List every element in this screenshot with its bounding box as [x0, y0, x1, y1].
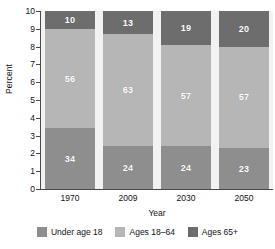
y-tick-label: 9	[17, 25, 35, 33]
bar-segment[interactable]: 10	[45, 11, 95, 29]
bar-segment[interactable]: 23	[219, 148, 269, 189]
x-tick-label: 1970	[45, 193, 95, 207]
bar-column[interactable]: 205723	[219, 11, 269, 189]
bar-segment-label: 63	[123, 85, 133, 95]
x-axis-line	[40, 189, 273, 190]
bar-column[interactable]: 136324	[103, 11, 153, 189]
legend-item[interactable]: Under age 18	[37, 227, 103, 237]
legend-label: Ages 65+	[202, 227, 238, 237]
y-tick-label: 1	[17, 167, 35, 175]
bar-segment[interactable]: 57	[161, 45, 211, 146]
legend-label: Ages 18–64	[129, 227, 174, 237]
y-tick-label: 8	[17, 43, 35, 51]
legend-label: Under age 18	[51, 227, 103, 237]
plot-area: 105634136324195724205723	[41, 11, 273, 189]
bar-segment[interactable]: 19	[161, 11, 211, 45]
bar-segment[interactable]: 13	[103, 11, 153, 34]
bar-segment-label: 24	[123, 163, 133, 173]
bar-column[interactable]: 195724	[161, 11, 211, 189]
y-tick-label: 4	[17, 114, 35, 122]
bar-segment-label: 13	[123, 18, 133, 28]
chart-legend: Under age 18Ages 18–64Ages 65+	[0, 227, 275, 237]
bar-segment-label: 10	[65, 15, 75, 25]
legend-item[interactable]: Ages 18–64	[115, 227, 174, 237]
bar-segment[interactable]: 63	[103, 34, 153, 146]
bar-segment[interactable]: 24	[161, 146, 211, 189]
bar-segment-label: 20	[239, 24, 249, 34]
bar-segment[interactable]: 57	[219, 47, 269, 148]
y-tick-label: 7	[17, 60, 35, 68]
y-tick-label: 6	[17, 78, 35, 86]
bar-column[interactable]: 105634	[45, 11, 95, 189]
y-tick-label: 0	[17, 185, 35, 193]
y-tick-label: 5	[17, 96, 35, 104]
bar-segment[interactable]: 56	[45, 29, 95, 129]
bar-segment[interactable]: 20	[219, 11, 269, 47]
x-tick-label: 2030	[161, 193, 211, 207]
x-axis-title: Year	[41, 208, 273, 218]
bar-segment-label: 24	[181, 163, 191, 173]
y-tick-label: 3	[17, 132, 35, 140]
bar-segment-label: 56	[65, 74, 75, 84]
x-tick-label: 2050	[219, 193, 269, 207]
bar-segment-label: 19	[181, 23, 191, 33]
stacked-bar-chart: Percent 109876543210 1056341363241957242…	[0, 0, 275, 249]
legend-swatch-icon	[115, 227, 125, 237]
y-axis-tick-labels: 109876543210	[17, 11, 35, 189]
bar-segment-label: 34	[65, 154, 75, 164]
y-axis-title: Percent	[4, 44, 14, 114]
bar-segment[interactable]: 24	[103, 146, 153, 189]
legend-item[interactable]: Ages 65+	[188, 227, 238, 237]
x-axis-tick-labels: 1970200920302050	[41, 193, 273, 207]
legend-swatch-icon	[37, 227, 47, 237]
y-tick-label: 2	[17, 149, 35, 157]
y-tick-label: 10	[17, 7, 35, 15]
bar-segment-label: 57	[239, 92, 249, 102]
bar-segment[interactable]: 34	[45, 128, 95, 189]
legend-swatch-icon	[188, 227, 198, 237]
x-tick-label: 2009	[103, 193, 153, 207]
bar-segment-label: 23	[239, 164, 249, 174]
bar-segment-label: 57	[181, 91, 191, 101]
